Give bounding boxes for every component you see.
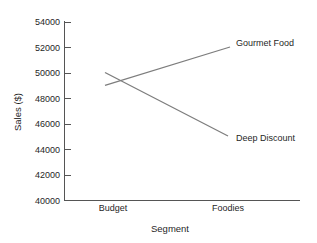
chart-canvas: 40000 42000 44000 46000 48000 50000 5200… xyxy=(0,0,317,243)
y-tick-label-46000: 46000 xyxy=(35,119,60,129)
interaction-plot: 40000 42000 44000 46000 48000 50000 5200… xyxy=(0,0,317,243)
y-tick-label-52000: 52000 xyxy=(35,43,60,53)
y-tick-label-40000: 40000 xyxy=(35,196,60,206)
y-tick-label-48000: 48000 xyxy=(35,94,60,104)
y-tick-label-54000: 54000 xyxy=(35,17,60,27)
series-line-deep-discount xyxy=(105,73,228,137)
y-tick-label-42000: 42000 xyxy=(35,170,60,180)
x-tick-label-budget: Budget xyxy=(99,203,128,213)
y-axis-ticks xyxy=(65,22,71,201)
y-axis-title: Sales ($) xyxy=(12,93,23,131)
x-tick-label-foodies: Foodies xyxy=(212,203,245,213)
y-tick-label-44000: 44000 xyxy=(35,145,60,155)
series-label-deep-discount: Deep Discount xyxy=(236,133,296,143)
series-line-gourmet-food xyxy=(105,47,230,85)
y-tick-label-50000: 50000 xyxy=(35,68,60,78)
x-axis-title: Segment xyxy=(151,223,189,234)
series-label-gourmet-food: Gourmet Food xyxy=(236,38,294,48)
